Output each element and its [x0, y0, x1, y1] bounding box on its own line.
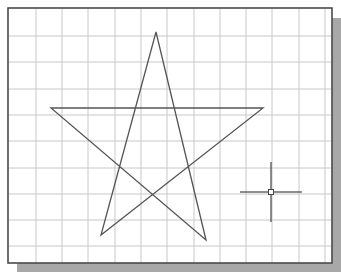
viewport-background	[8, 8, 332, 263]
pickbox-icon	[269, 190, 274, 195]
drawing-canvas[interactable]	[0, 0, 341, 278]
